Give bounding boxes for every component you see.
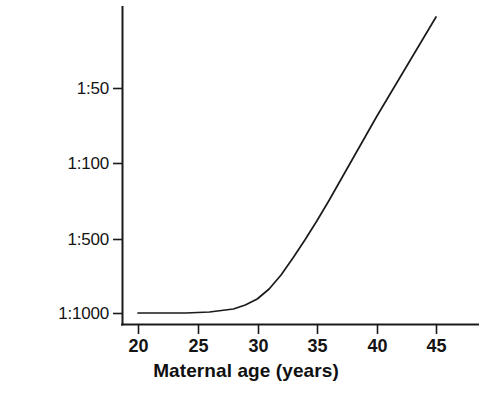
y-tick-label: 1:1000 bbox=[10, 305, 109, 322]
chart-figure: 1:50 1:100 1:500 1:1000 20 25 30 35 40 4… bbox=[0, 0, 492, 399]
y-tick-label: 1:100 bbox=[10, 155, 109, 172]
y-axis-ticks bbox=[113, 89, 122, 314]
frequency-curve bbox=[138, 17, 436, 313]
x-tick-label: 25 bbox=[174, 337, 223, 355]
x-tick-label: 20 bbox=[114, 337, 163, 355]
x-tick-label: 45 bbox=[412, 337, 461, 355]
x-tick-label: 40 bbox=[353, 337, 402, 355]
y-tick-label: 1:500 bbox=[10, 231, 109, 248]
y-tick-label: 1:50 bbox=[10, 80, 109, 97]
x-axis-title: Maternal age (years) bbox=[0, 360, 492, 382]
x-tick-label: 35 bbox=[293, 337, 342, 355]
x-tick-label: 30 bbox=[234, 337, 283, 355]
